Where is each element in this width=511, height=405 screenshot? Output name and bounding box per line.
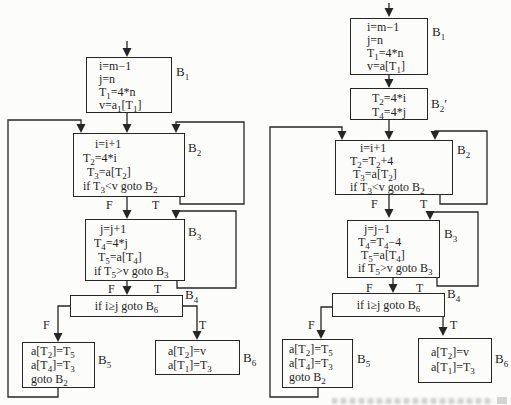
code-line: a[T2]=T5 bbox=[31, 344, 94, 358]
code-line: if T5>v goto B3 bbox=[94, 264, 184, 278]
block-b4-left: if i≥j goto B6 bbox=[70, 295, 183, 317]
block-b3-right: j=j−1 T4=T4−4 T5=a[T4] if T5>v goto B3 bbox=[347, 220, 440, 278]
code-line: a[T1]=T3 bbox=[431, 360, 491, 375]
branch-label-b4-false-left: F bbox=[43, 318, 50, 333]
block-label-b4-left: B4 bbox=[185, 287, 198, 303]
block-b4-right: if i≥j goto B6 bbox=[332, 293, 445, 317]
block-b5-left: a[T2]=T5 a[T4]=T3 goto B2 bbox=[22, 342, 95, 388]
code-line: T4=4*j bbox=[351, 105, 427, 119]
block-b3-left: j=j+1 T4=4*j T5=a[T4] if T5>v goto B3 bbox=[85, 219, 185, 281]
code-line: a[T4]=T3 bbox=[31, 358, 94, 372]
block-label-b4-right: B4 bbox=[447, 286, 460, 302]
block-label-b5-left: B5 bbox=[98, 352, 111, 368]
block-label-b2-right: B2 bbox=[457, 142, 470, 158]
code-line: j=j+1 bbox=[94, 222, 184, 236]
block-label-b1-right: B1 bbox=[432, 24, 445, 40]
branch-label-b2-false-left: F bbox=[106, 198, 113, 213]
block-b1-left: i=m−1 j=n T1=4*n v=a1[T1] bbox=[86, 57, 172, 113]
block-label-b2prime-right: B2′ bbox=[431, 96, 447, 112]
code-line: a[T2]=T5 bbox=[289, 342, 352, 356]
block-label-b5-right: B5 bbox=[357, 351, 370, 367]
code-line: a[T2]=v bbox=[431, 345, 491, 360]
block-label-b6-left: B6 bbox=[243, 350, 256, 366]
edge-b4-true-b6-left bbox=[183, 306, 197, 338]
edge-b2-true-loop-left bbox=[176, 122, 244, 204]
block-b6-right: a[T2]=v a[T1]=T3 bbox=[418, 338, 492, 383]
branch-label-b4-true-right: T bbox=[450, 318, 457, 333]
code-line: T4=T4−4 bbox=[358, 236, 439, 249]
code-line: if i≥j goto B6 bbox=[333, 297, 444, 313]
code-line: if T3<v goto B2 bbox=[350, 181, 452, 194]
edge-b4-false-b5-left bbox=[58, 306, 70, 340]
branch-label-b2-true-left: T bbox=[152, 198, 159, 213]
code-line: if i≥j goto B6 bbox=[71, 298, 182, 314]
code-line: goto B2 bbox=[31, 372, 94, 386]
block-label-b3-right: B3 bbox=[444, 226, 457, 242]
code-line: T3=a[T2] bbox=[83, 165, 184, 179]
block-label-b1-left: B1 bbox=[176, 64, 189, 80]
edge-b3-true-loop-left bbox=[176, 211, 236, 288]
block-label-b2-left: B2 bbox=[188, 140, 201, 156]
code-line: T2=4*i bbox=[351, 91, 427, 105]
code-line: v=a[T1] bbox=[367, 60, 427, 73]
branch-label-b4-false-right: F bbox=[308, 318, 315, 333]
block-b1-right: i=m−1 j=n T1=4*n v=a[T1] bbox=[350, 18, 428, 75]
block-label-b3-left: B3 bbox=[188, 224, 201, 240]
block-b5-right: a[T2]=T5 a[T4]=T3 goto B2 bbox=[282, 339, 353, 388]
code-line: a[T4]=T3 bbox=[289, 356, 352, 370]
branch-label-b2-true-right: T bbox=[420, 197, 427, 212]
branch-label-b4-true-left: T bbox=[199, 318, 206, 333]
block-b2-right: i=i+1 T2=T2+4 T3=a[T2] if T3<v goto B2 bbox=[335, 140, 453, 195]
code-line: a[T1]=T3 bbox=[168, 358, 239, 372]
code-line: v=a1[T1] bbox=[99, 99, 171, 112]
code-line: i=i+1 bbox=[83, 137, 184, 151]
edge-b4-false-b5-right bbox=[321, 307, 332, 337]
code-line: T4=4*j bbox=[94, 236, 184, 250]
code-line: T5=a[T4] bbox=[94, 250, 184, 264]
block-label-b6-right: B6 bbox=[495, 351, 508, 367]
block-b2-left: i=i+1 T2=4*i T3=a[T2] if T3<v goto B2 bbox=[73, 133, 185, 197]
code-line: if T5>v goto B3 bbox=[358, 262, 439, 275]
code-line: goto B2 bbox=[289, 370, 352, 384]
scanned-flowchart-page: i=m−1 j=n T1=4*n v=a1[T1] B1 i=i+1 T2=4*… bbox=[0, 0, 511, 405]
code-line: if T3<v goto B2 bbox=[83, 179, 184, 193]
block-b6-left: a[T2]=v a[T1]=T3 bbox=[155, 340, 240, 375]
branch-label-b2-false-right: F bbox=[371, 197, 378, 212]
code-line: T2=4*i bbox=[83, 151, 184, 165]
code-line: a[T2]=v bbox=[168, 344, 239, 358]
block-b2prime-right: T2=4*i T4=4*j bbox=[350, 88, 428, 120]
